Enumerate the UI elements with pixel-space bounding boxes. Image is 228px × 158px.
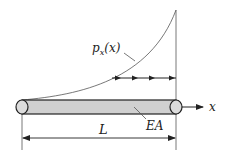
load-label-argument: (x) bbox=[104, 41, 120, 55]
stiffness-label: EA bbox=[145, 119, 164, 133]
bar-right-end bbox=[170, 100, 182, 114]
bar-diagram: x px(x) EA L bbox=[0, 0, 228, 158]
load-arrows bbox=[112, 76, 176, 81]
x-axis-label: x bbox=[209, 100, 216, 114]
bar-left-end bbox=[16, 100, 28, 114]
load-label-leader bbox=[124, 53, 135, 61]
load-label: px(x) bbox=[92, 41, 121, 57]
arrowhead-icon bbox=[132, 76, 138, 81]
length-label: L bbox=[98, 122, 108, 137]
arrowhead-icon bbox=[149, 76, 155, 81]
bar-body bbox=[22, 100, 176, 114]
arrowhead-icon bbox=[169, 76, 175, 81]
